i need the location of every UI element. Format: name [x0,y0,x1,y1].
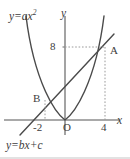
x-tick-label-neg2: -2 [33,122,42,133]
parabola-equation-label: y=ax2 [9,9,36,22]
y-tick-label-8: 8 [50,41,56,52]
figure-canvas [0,0,130,159]
x-tick-label-4: 4 [101,122,107,133]
parabola-equation-text: y=ax [9,10,33,22]
x-axis-label: x [117,115,122,127]
point-a-label: A [110,45,118,56]
bottom-divider [0,157,130,159]
origin-label: O [63,122,71,133]
math-figure: y=ax2 y=bx+c y x A B 8 -2 4 O [0,0,130,159]
point-b-label: B [33,93,40,104]
line-equation-label: y=bx+c [6,140,43,152]
y-axis-label: y [61,8,66,20]
parabola-equation-exponent: 2 [33,8,37,17]
